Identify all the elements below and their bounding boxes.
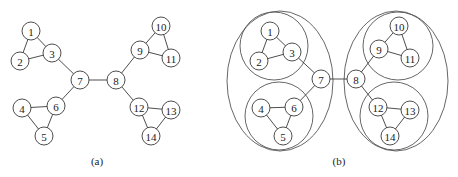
node-label: 2 xyxy=(256,56,262,68)
node-label: 14 xyxy=(385,131,397,143)
node-label: 8 xyxy=(353,74,359,86)
node-3: 3 xyxy=(283,43,301,61)
graph-canvas: 1234567891011121314(a)123456789101112131… xyxy=(0,0,458,177)
node-5: 5 xyxy=(274,127,292,145)
node-label: 9 xyxy=(376,44,382,56)
node-label: 4 xyxy=(19,103,25,115)
node-label: 12 xyxy=(373,102,384,114)
node-11: 11 xyxy=(401,49,419,67)
node-5: 5 xyxy=(35,127,53,145)
node-label: 11 xyxy=(405,53,416,65)
node-label: 9 xyxy=(137,45,143,57)
node-label: 2 xyxy=(17,56,23,68)
node-label: 8 xyxy=(113,75,119,87)
node-label: 7 xyxy=(318,74,324,86)
node-4: 4 xyxy=(252,99,270,117)
node-label: 11 xyxy=(166,53,177,65)
node-label: 3 xyxy=(289,47,295,59)
node-label: 10 xyxy=(156,21,168,33)
node-13: 13 xyxy=(401,101,419,119)
node-label: 13 xyxy=(405,105,417,117)
node-label: 5 xyxy=(280,131,286,143)
node-7: 7 xyxy=(312,70,330,88)
node-label: 13 xyxy=(166,105,178,117)
node-label: 12 xyxy=(134,102,145,114)
node-label: 1 xyxy=(267,26,273,38)
panel-a: 1234567891011121314(a) xyxy=(11,17,180,168)
node-8: 8 xyxy=(107,71,125,89)
panel-caption: (b) xyxy=(333,155,346,168)
node-label: 7 xyxy=(77,75,83,87)
node-12: 12 xyxy=(369,98,387,116)
node-14: 14 xyxy=(381,127,399,145)
node-label: 14 xyxy=(146,131,158,143)
node-12: 12 xyxy=(130,98,148,116)
node-label: 10 xyxy=(394,21,406,33)
graph-figure: 1234567891011121314(a)123456789101112131… xyxy=(0,0,458,177)
node-10: 10 xyxy=(390,17,408,35)
node-label: 5 xyxy=(41,131,47,143)
node-7: 7 xyxy=(71,71,89,89)
node-2: 2 xyxy=(250,52,268,70)
node-13: 13 xyxy=(162,101,180,119)
node-9: 9 xyxy=(131,41,149,59)
panel-b: 1234567891011121314(b) xyxy=(227,11,448,168)
node-label: 4 xyxy=(258,103,264,115)
node-label: 1 xyxy=(28,26,34,38)
node-10: 10 xyxy=(152,17,170,35)
node-6: 6 xyxy=(285,98,303,116)
node-4: 4 xyxy=(13,99,31,117)
node-label: 3 xyxy=(49,48,55,60)
node-14: 14 xyxy=(142,127,160,145)
node-label: 6 xyxy=(53,101,59,113)
node-2: 2 xyxy=(11,52,29,70)
node-8: 8 xyxy=(347,70,365,88)
node-label: 6 xyxy=(291,102,297,114)
node-9: 9 xyxy=(370,40,388,58)
panel-caption: (a) xyxy=(91,155,104,168)
node-1: 1 xyxy=(261,22,279,40)
node-11: 11 xyxy=(162,49,180,67)
node-1: 1 xyxy=(22,22,40,40)
node-6: 6 xyxy=(47,97,65,115)
node-3: 3 xyxy=(43,44,61,62)
